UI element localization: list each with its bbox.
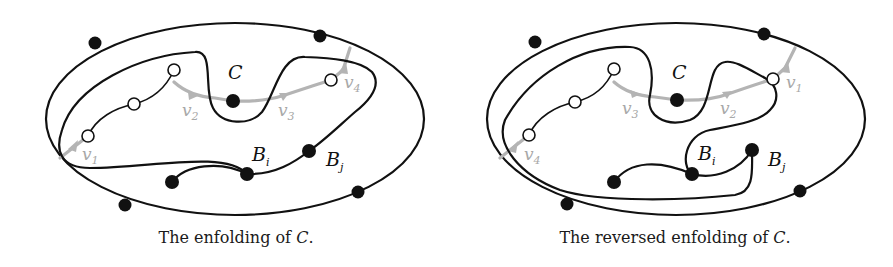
label-bi: Bi	[697, 142, 716, 168]
boundary-vertex	[758, 28, 771, 41]
label-v3: v3	[278, 100, 295, 123]
boundary-vertex	[314, 30, 327, 43]
outer-boundary	[487, 23, 865, 215]
cycle-label: C	[672, 61, 687, 83]
figure-canvas: C v1 v2 v3 v4 Bi Bj C v4 v3	[0, 0, 893, 267]
boundary-vertex	[89, 37, 102, 50]
cycle-path-segment	[614, 79, 773, 100]
label-bi: Bi	[251, 143, 270, 169]
cycle-center-dot	[670, 93, 684, 107]
label-bj: Bj	[767, 148, 786, 174]
reversed-enfolding-diagram: C v4 v3 v2 v1 Bi Bj	[487, 23, 865, 215]
label-bj: Bj	[325, 148, 344, 174]
boundary-vertex	[794, 185, 807, 198]
block-bj-dot	[745, 143, 759, 157]
vertex-hollow	[128, 98, 140, 110]
caption-text: The reversed enfolding of	[559, 228, 773, 247]
label-v4: v4	[344, 72, 361, 95]
caption-text: The enfolding of	[159, 228, 297, 247]
block-bj-dot	[302, 144, 316, 158]
label-v2: v2	[182, 100, 199, 123]
label-v2: v2	[720, 98, 737, 121]
outer-boundary	[46, 23, 424, 215]
boundary-vertex	[561, 198, 574, 211]
cycle-center-dot	[226, 94, 240, 108]
boundary-vertex	[352, 186, 365, 199]
tail-edge	[614, 150, 752, 182]
vertex-v4	[325, 74, 337, 86]
caption-enfolding: The enfolding of C.	[56, 228, 416, 247]
caption-end: .	[308, 228, 313, 247]
boundary-vertex	[119, 199, 132, 212]
label-v3: v3	[622, 98, 639, 121]
arrow-v3-icon	[630, 90, 641, 98]
tail-dot	[607, 175, 621, 189]
label-v4: v4	[524, 144, 541, 167]
vertex-hollow	[569, 96, 581, 108]
label-v1: v1	[786, 72, 803, 95]
tail-edge	[172, 166, 247, 182]
label-v1: v1	[82, 144, 99, 167]
caption-symbol: C	[296, 228, 308, 247]
vertex-v4	[523, 129, 535, 141]
reversed-enfolding-curve	[503, 47, 777, 199]
cycle-label: C	[228, 61, 243, 83]
vertex-v1	[82, 130, 94, 142]
block-bi-dot	[685, 167, 699, 181]
enfolding-diagram: C v1 v2 v3 v4 Bi Bj	[46, 23, 424, 215]
vertex-hollow	[168, 64, 180, 76]
caption-reversed-enfolding: The reversed enfolding of C.	[495, 228, 855, 247]
boundary-vertex	[529, 36, 542, 49]
cycle-path-segment	[174, 80, 331, 101]
vertex-hollow	[608, 63, 620, 75]
block-bi-dot	[240, 167, 254, 181]
caption-end: .	[786, 228, 791, 247]
tail-dot	[165, 175, 179, 189]
caption-symbol: C	[773, 228, 785, 247]
vertex-v1	[767, 73, 779, 85]
